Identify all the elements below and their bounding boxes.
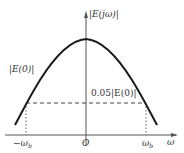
threshold-label: 0.05|E(0)|: [91, 89, 136, 98]
spectrum-diagram: [0, 0, 184, 153]
y-axis-arrow-icon: [84, 11, 88, 18]
origin-label: O: [82, 139, 89, 148]
neg-omega-b-main: −ω: [13, 138, 28, 148]
omega-b-label: ωb: [142, 139, 153, 149]
peak-label: |E(0)|: [9, 65, 34, 74]
neg-omega-b-label: −ωb: [13, 139, 32, 149]
neg-omega-b-sub: b: [28, 142, 32, 149]
x-axis-label: ω: [167, 138, 174, 147]
omega-b-sub: b: [149, 142, 153, 149]
y-axis-label: |E(jω)|: [89, 10, 119, 19]
